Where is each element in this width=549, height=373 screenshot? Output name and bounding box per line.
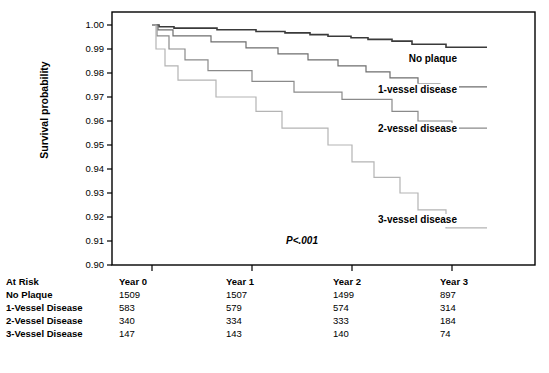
figure-root: Survival probability 1.000.990.980.970.9… (0, 0, 549, 373)
risk-table-cell: 579 (226, 301, 333, 314)
risk-table-cell: 574 (333, 301, 440, 314)
risk-table-row-label: 1-Vessel Disease (6, 301, 119, 314)
risk-table-header-row: At RiskYear 0Year 1Year 2Year 3 (6, 275, 547, 288)
y-axis-tick-label: 0.91 (86, 235, 105, 246)
survival-curve-3 (152, 25, 487, 128)
risk-table-cell: 340 (119, 314, 226, 327)
survival-curve-plot: 1.000.990.980.970.960.950.940.930.920.91… (0, 0, 549, 275)
curve-label-3: 2-vessel disease (378, 123, 457, 134)
risk-table-cell: 143 (226, 327, 333, 340)
y-axis-tick-label: 0.94 (86, 163, 105, 174)
risk-table-cell: 74 (440, 327, 547, 340)
y-axis-tick-label: 1.00 (86, 19, 105, 30)
risk-table-cell: 140 (333, 327, 440, 340)
risk-table-element: At RiskYear 0Year 1Year 2Year 3No Plaque… (6, 275, 547, 340)
risk-table-row: 1-Vessel Disease583579574314 (6, 301, 547, 314)
risk-table-row: 2-Vessel Disease340334333184 (6, 314, 547, 327)
risk-table-cell: 314 (440, 301, 547, 314)
risk-table-cell: 184 (440, 314, 547, 327)
y-axis-tick-label: 0.92 (86, 211, 105, 222)
risk-table-cell: 1499 (333, 288, 440, 301)
curve-label-1: No plaque (409, 53, 458, 64)
y-axis-tick-label: 0.90 (86, 259, 105, 270)
y-axis: 1.000.990.980.970.960.950.940.930.920.91… (86, 19, 113, 270)
y-axis-tick-label: 0.98 (86, 67, 105, 78)
risk-table-cell: 1507 (226, 288, 333, 301)
risk-table-column-header: Year 3 (440, 275, 547, 288)
risk-table-row: No Plaque150915071499897 (6, 288, 547, 301)
survival-chart: Survival probability 1.000.990.980.970.9… (0, 0, 549, 275)
x-axis (152, 265, 452, 271)
y-axis-tick-label: 0.93 (86, 187, 105, 198)
risk-table-corner-label: At Risk (6, 275, 119, 288)
risk-table-cell: 147 (119, 327, 226, 340)
risk-table-column-header: Year 0 (119, 275, 226, 288)
y-axis-title: Survival probability (38, 20, 50, 200)
plot-frame (112, 12, 535, 265)
risk-table-row-label: 2-Vessel Disease (6, 314, 119, 327)
risk-table-row: 3-Vessel Disease14714314074 (6, 327, 547, 340)
curve-label-2: 1-vessel disease (378, 84, 457, 95)
at-risk-table: At RiskYear 0Year 1Year 2Year 3No Plaque… (0, 275, 549, 373)
y-axis-tick-label: 0.99 (86, 43, 105, 54)
risk-table-cell: 334 (226, 314, 333, 327)
risk-table-cell: 897 (440, 288, 547, 301)
risk-table-cell: 333 (333, 314, 440, 327)
risk-table-cell: 1509 (119, 288, 226, 301)
p-value-annotation: P<.001 (286, 235, 318, 246)
risk-table-cell: 583 (119, 301, 226, 314)
risk-table-row-label: No Plaque (6, 288, 119, 301)
y-axis-tick-label: 0.97 (86, 91, 105, 102)
risk-table-column-header: Year 2 (333, 275, 440, 288)
risk-table-row-label: 3-Vessel Disease (6, 327, 119, 340)
y-axis-tick-label: 0.95 (86, 139, 105, 150)
curve-label-4: 3-vessel disease (378, 214, 457, 225)
risk-table-column-header: Year 1 (226, 275, 333, 288)
y-axis-tick-label: 0.96 (86, 115, 105, 126)
